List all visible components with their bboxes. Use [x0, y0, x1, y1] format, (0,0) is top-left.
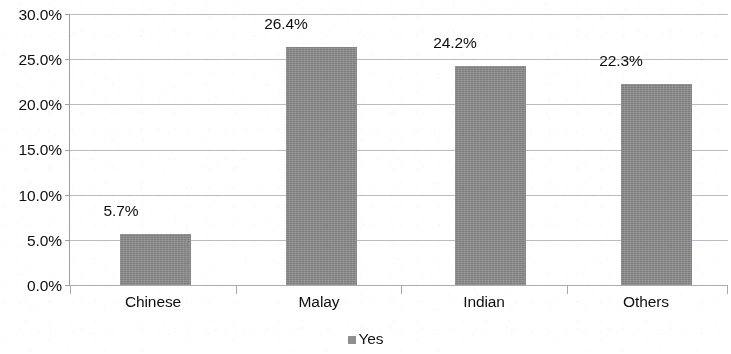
x-axis-category-label-others: Others: [563, 293, 729, 311]
bar-value-label-indian: 24.2%: [419, 34, 491, 52]
y-axis-tick-label: 30.0%: [0, 6, 62, 24]
legend-swatch-icon: [348, 336, 356, 344]
y-axis-tick-label: 10.0%: [0, 187, 62, 205]
y-axis-tick-label: 5.0%: [0, 232, 62, 250]
chart-legend: Yes: [0, 330, 731, 348]
gridline-0-baseline: [70, 285, 728, 286]
bar-others[interactable]: [621, 84, 692, 285]
bar-chinese[interactable]: [120, 234, 191, 285]
bar-indian[interactable]: [455, 66, 526, 285]
x-axis-category-label-malay: Malay: [236, 293, 402, 311]
bar-value-label-malay: 26.4%: [250, 15, 322, 33]
y-axis-tick-label: 20.0%: [0, 96, 62, 114]
y-axis-tick-label: 15.0%: [0, 141, 62, 159]
y-axis-tick-label: 0.0%: [0, 277, 62, 295]
bar-value-label-others: 22.3%: [585, 52, 657, 70]
gridline-30: [70, 14, 728, 15]
bar-chart: 30.0% 25.0% 20.0% 15.0% 10.0% 5.0% 0.0% …: [0, 0, 731, 354]
bar-value-label-chinese: 5.7%: [85, 202, 157, 220]
x-axis-category-label-indian: Indian: [401, 293, 567, 311]
legend-entry-label[interactable]: Yes: [359, 330, 384, 348]
x-axis-category-label-chinese: Chinese: [70, 293, 236, 311]
y-axis-tick-label: 25.0%: [0, 51, 62, 69]
bar-malay[interactable]: [286, 47, 357, 285]
